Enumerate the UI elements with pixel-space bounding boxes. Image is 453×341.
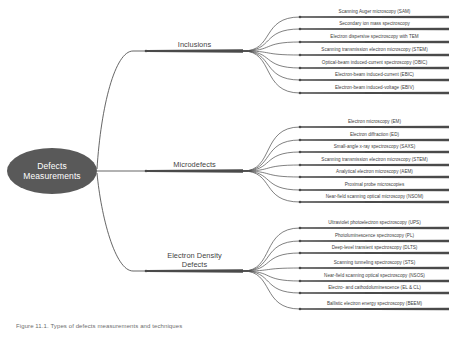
branch-underline[interactable] [146, 269, 243, 272]
leaf-connector [243, 171, 300, 202]
leaf-connector [243, 241, 300, 271]
leaf-connector [243, 127, 300, 171]
leaf-underline[interactable] [300, 54, 449, 57]
leaf-connector [243, 29, 300, 51]
leaf-connector [243, 17, 300, 51]
branch-label-line2: Defects [182, 260, 207, 269]
leaf-label[interactable]: Electron diffraction (ED) [302, 132, 447, 138]
leaf-label[interactable]: Electron-beam induced-voltage (EBIV) [302, 85, 447, 91]
branch-label-2[interactable]: Microdefects [146, 160, 243, 169]
leaf-node-dot [299, 92, 302, 95]
leaf-underline[interactable] [300, 67, 449, 70]
leaf-node-dot [299, 79, 302, 82]
leaf-label[interactable]: Secondary ion mass spectroscopy [302, 21, 447, 27]
leaf-underline[interactable] [300, 252, 449, 255]
branch-connector [97, 51, 146, 169]
leaf-node-dot [299, 201, 302, 204]
leaf-node-dot [299, 164, 302, 167]
branch-node-dot [145, 50, 148, 53]
leaf-node-dot [299, 151, 302, 154]
leaf-connector [243, 140, 300, 171]
leaf-label[interactable]: Electron-beam induced-current (EBIC) [302, 72, 447, 78]
mind-map-diagram: Defects Measurements InclusionsScanning … [0, 0, 453, 341]
leaf-node-dot [299, 227, 302, 230]
leaf-connector [243, 51, 300, 93]
figure-caption: Figure 11.1. Types of defects measuremen… [16, 322, 440, 332]
leaf-node-dot [299, 189, 302, 192]
leaf-node-dot [299, 280, 302, 283]
leaf-label[interactable]: Optical-beam induced-current spectroscop… [302, 60, 447, 66]
leaf-node-dot [299, 139, 302, 142]
branch-connector-group [97, 51, 146, 271]
leaf-label[interactable]: Near-field scanning optical microscopy (… [302, 194, 447, 200]
leaf-underline[interactable] [300, 267, 449, 270]
leaf-underline[interactable] [300, 189, 449, 192]
leaf-connector [243, 171, 300, 190]
leaf-label[interactable]: Ultraviolet photoelectron spectroscopy (… [302, 220, 447, 226]
leaf-label[interactable]: Ballistic electron energy spectroscopy (… [302, 301, 447, 307]
branch-label-line1: Electron Density [167, 251, 222, 260]
leaf-underline[interactable] [300, 79, 449, 82]
root-node-label[interactable]: Defects Measurements [8, 148, 96, 194]
leaf-label[interactable]: Analytical electron microscopy (AEM) [302, 169, 447, 175]
leaf-label[interactable]: Scanning transmission electron microscop… [302, 47, 447, 53]
leaf-label[interactable]: Deep-level transient spectroscopy (DLTS) [302, 245, 447, 251]
branch-underline[interactable] [146, 169, 243, 172]
branch-node-dot [145, 170, 148, 173]
leaf-underline[interactable] [300, 126, 449, 129]
leaf-node-dot [299, 41, 302, 44]
leaf-underline[interactable] [300, 227, 449, 230]
leaf-underline[interactable] [300, 201, 449, 204]
leaf-node-dot [299, 252, 302, 255]
branch-node-dot [145, 270, 148, 273]
leaf-underline[interactable] [300, 164, 449, 167]
leaf-connector-group [243, 17, 300, 309]
leaf-underline[interactable] [300, 176, 449, 179]
leaf-node-dot [299, 176, 302, 179]
leaf-label[interactable]: Near-field scanning optical spectroscopy… [302, 273, 447, 279]
leaf-underline[interactable] [300, 41, 449, 44]
leaf-underline[interactable] [300, 151, 449, 154]
leaf-underline[interactable] [300, 139, 449, 142]
leaf-node-dot [299, 126, 302, 129]
leaf-label[interactable]: Scanning Auger microscopy (SAM) [302, 9, 447, 15]
leaf-label[interactable]: Small-angle x-ray spectroscopy (SAXS) [302, 144, 447, 150]
leaf-connector [243, 271, 300, 293]
leaf-underline[interactable] [300, 240, 449, 243]
leaf-label[interactable]: Electron dispersive spectroscopy with TE… [302, 34, 447, 40]
leaf-underline[interactable] [300, 308, 449, 311]
branch-label-line1: Microdefects [173, 160, 216, 169]
leaf-underline[interactable] [300, 280, 449, 283]
leaf-connector [243, 51, 300, 80]
leaf-label[interactable]: Scanning transmission electron microscop… [302, 157, 447, 163]
leaf-connector [243, 228, 300, 271]
leaf-node-dot [299, 292, 302, 295]
branch-label-1[interactable]: Inclusions [146, 40, 243, 49]
leaf-underline[interactable] [300, 16, 449, 19]
leaf-underline[interactable] [300, 92, 449, 95]
branch-label-3[interactable]: Electron DensityDefects [146, 251, 243, 269]
leaf-node-dot [299, 308, 302, 311]
leaf-underline[interactable] [300, 292, 449, 295]
leaf-node-dot [299, 67, 302, 70]
leaf-label[interactable]: Photoluminescence spectroscopy (PL) [302, 233, 447, 239]
leaf-label[interactable]: Electro- and cathodoluminescence (EL & C… [302, 285, 447, 291]
leaf-label[interactable]: Proximal probe microscopies [302, 182, 447, 188]
leaf-node-dot [299, 16, 302, 19]
leaf-label[interactable]: Scanning tunneling spectroscopy (STS) [302, 260, 447, 266]
leaf-connector [243, 152, 300, 171]
leaf-underline[interactable] [300, 28, 449, 31]
branch-label-line1: Inclusions [178, 40, 211, 49]
root-label-line1: Defects [37, 161, 67, 172]
branch-underline[interactable] [146, 49, 243, 52]
leaf-node-dot [299, 267, 302, 270]
leaf-label[interactable]: Electron microscopy (EM) [302, 119, 447, 125]
leaf-node-dot [299, 28, 302, 31]
leaf-connector [243, 271, 300, 309]
root-label-line2: Measurements [23, 171, 80, 182]
branch-connector [97, 173, 146, 271]
leaf-node-dot [299, 240, 302, 243]
leaf-node-dot [299, 54, 302, 57]
